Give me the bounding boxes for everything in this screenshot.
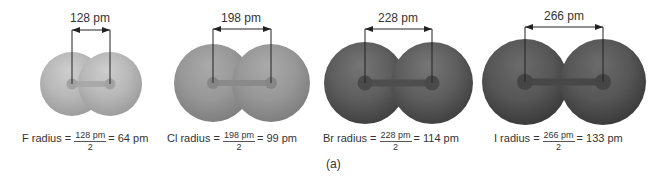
formula-cl-radius: Cl radius =198 pm2= 99 pm xyxy=(167,129,297,150)
panel-label: (a) xyxy=(326,157,341,171)
molecule-f2: 128 pm xyxy=(40,11,142,116)
fraction-numerator: 128 pm xyxy=(74,131,106,142)
fraction: 128 pm2 xyxy=(74,131,106,152)
formula-rhs: = 133 pm xyxy=(577,132,623,144)
fraction-numerator: 266 pm xyxy=(543,131,575,142)
formula-lhs: Br radius = xyxy=(323,132,377,144)
halogen-atomic-radius-figure: 128 pm 198 pm 228 pm xyxy=(0,0,672,186)
bond-bar xyxy=(365,80,432,87)
bond-bar xyxy=(525,79,603,86)
formula-lhs: Cl radius = xyxy=(167,132,220,144)
fraction-denominator: 2 xyxy=(74,142,106,152)
molecule-i2: 266 pm xyxy=(482,9,646,125)
bond-length-label: 198 pm xyxy=(221,11,261,25)
formula-lhs: F radius = xyxy=(22,132,71,144)
bond-length-label: 228 pm xyxy=(378,11,418,25)
formula-br-radius: Br radius =228 pm2= 114 pm xyxy=(323,129,459,150)
formula-lhs: I radius = xyxy=(494,132,540,144)
fraction-denominator: 2 xyxy=(543,142,575,152)
bond-length-label: 128 pm xyxy=(70,11,110,25)
formula-i-radius: I radius =266 pm2= 133 pm xyxy=(494,129,623,150)
formula-rhs: = 114 pm xyxy=(414,132,459,144)
bond-bar xyxy=(213,80,271,86)
fraction: 228 pm2 xyxy=(380,131,412,152)
bond-bar xyxy=(72,81,110,87)
fraction-denominator: 2 xyxy=(380,142,412,152)
fraction: 198 pm2 xyxy=(223,131,255,152)
molecule-br2: 228 pm xyxy=(324,11,473,124)
formula-rhs: = 99 pm xyxy=(257,132,297,144)
formula-rhs: = 64 pm xyxy=(108,132,148,144)
fraction-denominator: 2 xyxy=(223,142,255,152)
formula-f-radius: F radius =128 pm2= 64 pm xyxy=(22,129,148,150)
fraction-numerator: 198 pm xyxy=(223,131,255,142)
bond-length-label: 266 pm xyxy=(544,9,584,23)
fraction: 266 pm2 xyxy=(543,131,575,152)
fraction-numerator: 228 pm xyxy=(380,131,412,142)
molecule-cl2: 198 pm xyxy=(174,11,310,122)
